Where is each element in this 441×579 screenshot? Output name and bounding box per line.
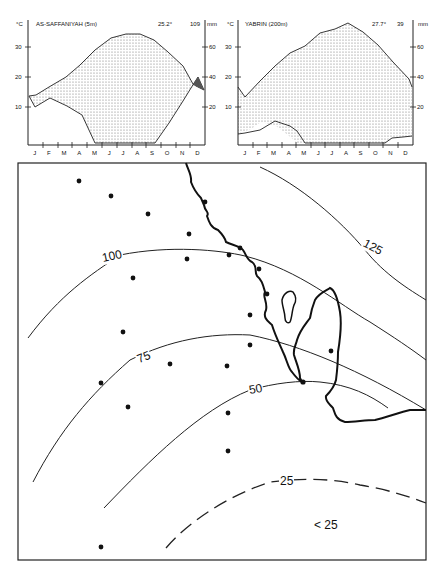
- month-label: D: [195, 150, 199, 156]
- month-label: N: [388, 150, 392, 156]
- tick-label: 20: [225, 74, 232, 80]
- isoline-label-25: 25: [279, 474, 294, 488]
- tick-label: 20: [209, 104, 216, 110]
- precip-total-right: 39: [397, 21, 404, 27]
- month-label: A: [287, 150, 291, 156]
- month-label: J: [317, 150, 320, 156]
- tick-label: 10: [15, 104, 22, 110]
- tick-label: 30: [15, 44, 22, 50]
- month-label: A: [77, 150, 81, 156]
- month-label: M: [271, 150, 276, 156]
- station-title-left: AS-SAFFANIYAH (5m): [36, 21, 97, 27]
- tick-label: 60: [417, 44, 424, 50]
- month-label: M: [62, 150, 67, 156]
- month-label: J: [33, 150, 36, 156]
- isoline-label-100: 100: [100, 247, 124, 265]
- tick-label: 20: [417, 104, 424, 110]
- tick-label: 30: [225, 44, 232, 50]
- month-label: A: [135, 150, 139, 156]
- month-label: J: [243, 150, 246, 156]
- month-label: J: [121, 150, 124, 156]
- month-label: O: [373, 150, 378, 156]
- month-label: F: [47, 150, 51, 156]
- tick-label: 40: [417, 74, 424, 80]
- month-label: M: [301, 150, 306, 156]
- isoline-label-125: 125: [360, 236, 386, 259]
- tick-label: 20: [15, 74, 22, 80]
- left-unit-label: °C: [16, 21, 23, 27]
- month-label: N: [180, 150, 184, 156]
- isoline-label-50: 50: [247, 381, 265, 397]
- month-label: A: [344, 150, 348, 156]
- month-label: S: [358, 150, 362, 156]
- region-label-less-than-25: < 25: [314, 518, 338, 532]
- right-unit-label: mm: [418, 21, 428, 27]
- month-label: J: [330, 150, 333, 156]
- month-label: F: [257, 150, 261, 156]
- tick-label: 10: [225, 104, 232, 110]
- mean-temp-right: 27.7°: [372, 21, 386, 27]
- station-title-right: YABRIN (200m): [245, 21, 288, 27]
- month-label: D: [403, 150, 407, 156]
- month-label: J: [108, 150, 111, 156]
- isoline-label-75: 75: [134, 348, 153, 367]
- month-label: M: [92, 150, 97, 156]
- month-label: O: [165, 150, 170, 156]
- month-axis-left: JFMAMJJASOND: [28, 150, 205, 156]
- precip-total-left: 109: [190, 21, 200, 27]
- tick-label: 40: [209, 74, 216, 80]
- tick-label: 60: [209, 44, 216, 50]
- left-unit-label: °C: [227, 21, 234, 27]
- right-unit-label: mm: [207, 21, 217, 27]
- mean-temp-left: 25.2°: [158, 21, 172, 27]
- month-label: S: [150, 150, 154, 156]
- month-axis-right: JFMAMJJASOND: [238, 150, 413, 156]
- text-layer: °C AS-SAFFANIYAH (5m) 25.2° 109 mm 30 20…: [0, 0, 441, 579]
